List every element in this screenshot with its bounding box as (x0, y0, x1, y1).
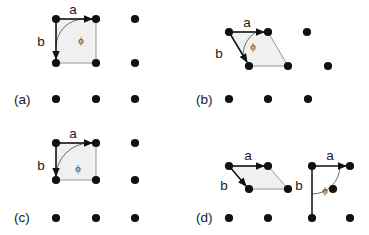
lattice-dot (92, 139, 100, 147)
angle-phi-label: ϕ (322, 185, 328, 196)
lattice-dot (308, 162, 316, 170)
unit-cell-c (56, 143, 96, 180)
panel-c: a b ϕ (c) (14, 126, 139, 225)
lattice-figure: a b ϕ (a) a b ϕ (b) (0, 0, 369, 235)
panel-label-a: (a) (14, 92, 31, 107)
panel-a: a b ϕ (a) (14, 2, 139, 107)
lattice-dot (131, 95, 139, 103)
lattice-dot (284, 62, 292, 70)
vector-b-label: b (37, 34, 45, 49)
angle-phi-label: ϕ (78, 35, 84, 46)
lattice-dot (131, 15, 139, 23)
lattice-dot (52, 214, 60, 222)
lattice-dot (225, 28, 233, 36)
lattice-dot (92, 176, 100, 184)
lattice-dot (304, 95, 312, 103)
unit-cell-a (56, 19, 96, 63)
lattice-dot (324, 62, 332, 70)
vector-a-label: a (243, 15, 251, 30)
unit-cell-b (229, 32, 288, 66)
lattice-dot (329, 185, 337, 193)
lattice-dot (131, 59, 139, 67)
lattice-dot (52, 15, 60, 23)
lattice-dot (264, 95, 272, 103)
lattice-dot (225, 162, 233, 170)
lattice-dot (131, 139, 139, 147)
lattice-dot (92, 95, 100, 103)
lattice-dot (52, 59, 60, 67)
vector-a-label: a (69, 2, 77, 17)
vector-a-label: a (69, 126, 77, 141)
vector-b-label: b (215, 46, 223, 61)
lattice-dot (131, 214, 139, 222)
lattice-dot (92, 59, 100, 67)
panel-label-b: (b) (196, 92, 213, 107)
lattice-dot (52, 176, 60, 184)
lattice-dot (131, 176, 139, 184)
panel-b: a b ϕ (b) (196, 15, 332, 107)
vector-b-label: b (220, 178, 228, 193)
lattice-dot (264, 162, 272, 170)
lattice-dot (92, 214, 100, 222)
lattice-dot (92, 15, 100, 23)
vector-b-label: b (37, 158, 45, 173)
lattice-dot (52, 139, 60, 147)
panel-label-d: (d) (196, 210, 213, 225)
lattice-dot (346, 162, 354, 170)
lattice-dot (264, 28, 272, 36)
lattice-dot (225, 214, 233, 222)
lattice-dot (284, 185, 292, 193)
lattice-dot (52, 95, 60, 103)
lattice-dot (308, 214, 316, 222)
vector-a2-label: a (326, 148, 334, 163)
angle-phi-label: ϕ (250, 41, 256, 52)
lattice-dot (264, 214, 272, 222)
angle-phi-label: ϕ (75, 163, 81, 174)
panel-label-c: (c) (14, 210, 30, 225)
lattice-dot (346, 214, 354, 222)
figure-canvas: a b ϕ (a) a b ϕ (b) (0, 0, 369, 235)
lattice-dot (303, 28, 311, 36)
lattice-dot (245, 185, 253, 193)
vector-a-label: a (244, 148, 252, 163)
lattice-dot (245, 62, 253, 70)
vector-b2-label: b (295, 178, 303, 193)
panel-d: a b a b ϕ (d) (196, 148, 354, 225)
lattice-dot (225, 95, 233, 103)
